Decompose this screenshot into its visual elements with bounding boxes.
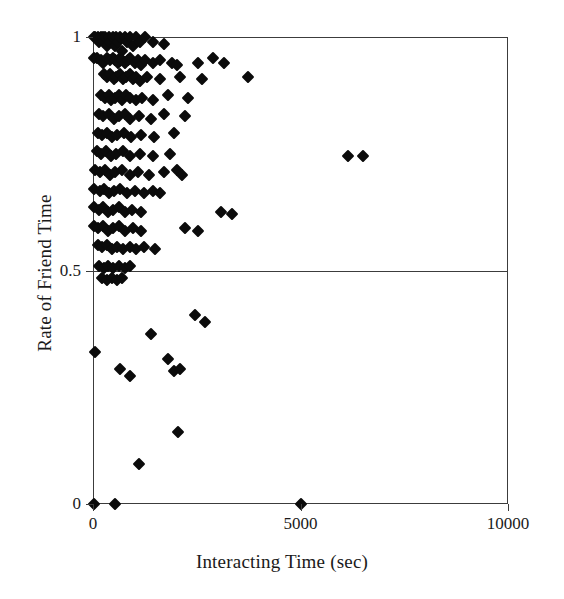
x-tick (301, 504, 302, 511)
x-axis-label: Interacting Time (sec) (0, 551, 564, 573)
x-tick-label: 10000 (487, 514, 530, 534)
x-tick-label: 5000 (284, 514, 318, 534)
x-tick-label: 0 (89, 514, 98, 534)
y-tick-label: 0 (31, 494, 81, 514)
y-tick-label: 1 (31, 27, 81, 47)
scatter-chart-figure: 050001000000.51 Interacting Time (sec) R… (0, 0, 564, 599)
x-tick (93, 504, 94, 511)
y-tick (86, 37, 93, 38)
y-tick (86, 271, 93, 272)
reference-line-0.5 (93, 271, 508, 272)
y-tick (86, 504, 93, 505)
x-tick (508, 504, 509, 511)
y-axis-label: Rate of Friend Time (34, 143, 56, 403)
